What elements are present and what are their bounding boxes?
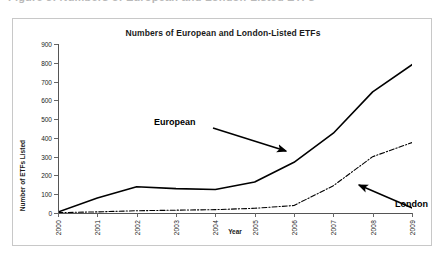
y-tick [54,157,58,158]
y-axis-title: Number of ETFs Listed [19,140,26,211]
clipped-caption-text: Figure 3: Numbers of European and London… [8,0,315,3]
plot-area: 0100200300400500600700800900 20002001200… [58,44,412,213]
y-tick [54,175,58,176]
x-tick [255,213,256,217]
x-tick [215,213,216,217]
series-lines [58,44,412,213]
y-tick [54,138,58,139]
y-tick-label: 700 [41,78,52,85]
y-tick-label: 500 [41,116,52,123]
y-tick-label: 600 [41,97,52,104]
y-tick [54,194,58,195]
x-tick-label: 2002 [134,220,141,235]
clipped-caption-strip: Figure 3: Numbers of European and London… [0,0,446,9]
x-tick-label: 2001 [94,220,101,235]
y-tick-label: 100 [41,191,52,198]
x-tick [333,213,334,217]
y-tick-label: 0 [48,210,52,217]
chart-figure: Numbers of European and London-Listed ET… [12,18,432,246]
y-tick [54,63,58,64]
y-tick-label: 300 [41,153,52,160]
x-tick-label: 2005 [252,220,259,235]
x-tick-label: 2000 [55,220,62,235]
x-axis-line [58,213,412,214]
y-tick-label: 200 [41,172,52,179]
x-tick [373,213,374,217]
x-tick-label: 2003 [173,220,180,235]
x-tick-label: 2006 [291,220,298,235]
y-tick [54,119,58,120]
y-axis-line [58,44,59,213]
x-tick [412,213,413,217]
x-tick [294,213,295,217]
x-tick-label: 2004 [212,220,219,235]
x-tick-label: 2008 [370,220,377,235]
x-axis-title: Year [58,228,412,235]
x-tick [176,213,177,217]
annotation-label-european: European [154,117,196,127]
y-tick-label: 400 [41,134,52,141]
annotation-label-london: London [395,199,428,209]
y-tick [54,100,58,101]
line-london [58,143,412,213]
x-tick [58,213,59,217]
y-tick-label: 900 [41,41,52,48]
x-tick-label: 2007 [330,220,337,235]
x-tick-label: 2009 [409,220,416,235]
y-tick [54,44,58,45]
x-tick [97,213,98,217]
y-tick [54,82,58,83]
x-tick [137,213,138,217]
line-european [58,65,412,212]
y-tick-label: 800 [41,59,52,66]
chart-title: Numbers of European and London-Listed ET… [13,28,433,38]
